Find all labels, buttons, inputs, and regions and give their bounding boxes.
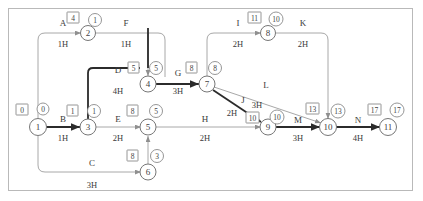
activity-duration-K: 2H <box>298 39 308 49</box>
activity-duration-E: 2H <box>113 133 123 143</box>
node-6-early: 8 <box>131 152 135 161</box>
node-3-late: 1 <box>92 107 96 116</box>
activity-label-E: E <box>115 114 121 124</box>
node-9-label: 9 <box>266 122 271 132</box>
node-8-label: 8 <box>266 28 271 38</box>
node-1-early: 0 <box>20 106 24 115</box>
activity-label-D: D <box>115 65 122 75</box>
node-3[interactable]: 3 1 1 <box>67 105 101 136</box>
node-2-late: 1 <box>93 16 97 25</box>
node-5-late: 5 <box>154 107 158 116</box>
activity-label-J: J <box>241 95 245 105</box>
diagram-canvas: A 1H B 1H C 3H D 4H E 2H F 1H G 3H H 2H … <box>0 0 423 201</box>
node-8-late: 10 <box>272 15 280 24</box>
node-10[interactable]: 10 13 13 <box>306 103 345 136</box>
node-1-label: 1 <box>36 122 41 132</box>
node-9-early: 10 <box>249 114 257 123</box>
network-graph: A 1H B 1H C 3H D 4H E 2H F 1H G 3H H 2H … <box>0 0 423 201</box>
node-4-early: 5 <box>132 64 136 73</box>
node-2[interactable]: 2 4 1 <box>67 12 102 41</box>
node-1-late: 0 <box>41 105 45 114</box>
node-11-late: 17 <box>393 106 401 115</box>
node-7-late: 8 <box>213 64 217 73</box>
activity-duration-A: 1H <box>58 39 68 49</box>
node-2-label: 2 <box>86 28 91 38</box>
node-8-early: 11 <box>251 14 258 23</box>
activity-label-H: H <box>202 114 209 124</box>
node-4-label: 4 <box>146 79 151 89</box>
node-9-late: 10 <box>273 113 281 122</box>
activity-duration-G: 3H <box>173 86 183 96</box>
activity-label-N: N <box>355 115 362 125</box>
activity-label-G: G <box>175 68 182 78</box>
node-4-late: 5 <box>154 64 158 73</box>
activity-duration-I: 2H <box>233 39 243 49</box>
node-7-early: 8 <box>190 64 194 73</box>
activity-duration-M: 3H <box>293 133 303 143</box>
node-6-late: 3 <box>155 152 159 161</box>
activity-label-L: L <box>263 80 269 90</box>
activity-duration-B: 1H <box>58 133 68 143</box>
activity-duration-L: 3H <box>252 100 262 110</box>
node-11-early: 17 <box>371 106 379 115</box>
node-11-label: 11 <box>384 122 393 132</box>
activity-duration-F: 1H <box>121 39 131 49</box>
activity-label-B: B <box>60 114 66 124</box>
node-5[interactable]: 5 8 5 <box>127 105 163 136</box>
activity-duration-J: 2H <box>227 108 237 118</box>
node-1[interactable]: 1 0 0 <box>16 103 49 136</box>
node-2-early: 4 <box>71 14 75 23</box>
node-5-label: 5 <box>146 122 151 132</box>
node-6[interactable]: 6 8 3 <box>127 150 164 181</box>
node-10-label: 10 <box>324 122 334 132</box>
activity-duration-N: 4H <box>353 133 363 143</box>
activity-label-C: C <box>89 158 95 168</box>
node-6-label: 6 <box>146 167 151 177</box>
activity-label-A: A <box>60 18 67 28</box>
node-3-label: 3 <box>86 122 91 132</box>
activity-duration-D: 4H <box>113 86 123 96</box>
activity-label-F: F <box>123 18 128 28</box>
activity-label-I: I <box>237 18 240 28</box>
node-4[interactable]: 4 5 5 <box>128 62 163 93</box>
node-7-label: 7 <box>205 79 210 89</box>
activity-duration-H: 2H <box>200 133 210 143</box>
node-8[interactable]: 8 11 10 <box>248 12 283 41</box>
activity-label-K: K <box>300 18 307 28</box>
node-5-early: 8 <box>131 107 135 116</box>
node-11[interactable]: 11 17 17 <box>368 103 404 136</box>
node-10-late: 13 <box>334 107 342 116</box>
activity-label-M: M <box>294 115 302 125</box>
activity-duration-C: 3H <box>87 180 97 190</box>
node-9[interactable]: 9 10 10 <box>246 110 284 135</box>
node-10-early: 13 <box>309 105 317 114</box>
node-3-early: 1 <box>71 107 75 116</box>
